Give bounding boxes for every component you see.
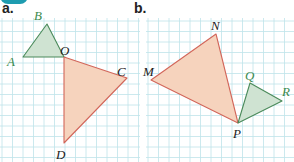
triangle-ABO [23,24,64,57]
triangle-MNP [151,34,238,123]
vertex-label-c: C [117,64,126,79]
vertex-label-m: M [142,64,155,79]
vertex-label-p: P [232,126,241,141]
vertex-label-d: D [55,147,66,162]
vertex-label-q: Q [245,68,255,83]
figure-canvas: a.BAOCDb.NMQRP [0,0,294,162]
vertex-label-a: A [6,54,15,69]
vertex-label-n: N [210,18,221,33]
triangle-QRP [238,83,282,123]
vertex-label-o: O [60,43,70,58]
vertex-label-b: B [34,8,42,23]
rotation-figure: a.BAOCDb.NMQRP [0,0,294,162]
labels-layer: a.BAOCDb.NMQRP [2,0,290,162]
vertex-label-r: R [281,84,290,99]
part-label-b: b. [134,0,146,16]
